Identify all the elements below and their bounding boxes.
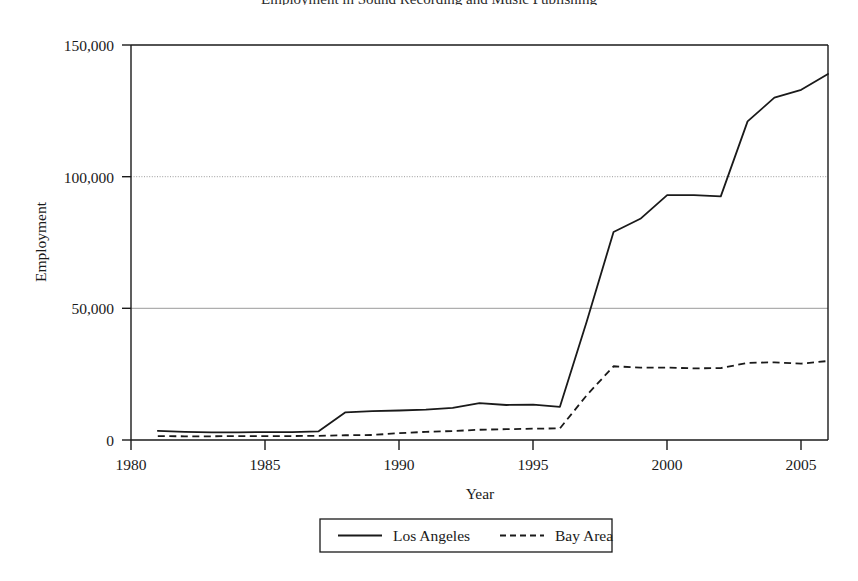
y-tick-marks: [122, 45, 131, 440]
x-tick-label-2000: 2000: [652, 456, 683, 473]
legend-label-los-angeles: Los Angeles: [393, 527, 470, 544]
line-chart: 0 50,000 100,000 150,000 1980 1985 1990 …: [0, 0, 858, 581]
series-line-los-angeles: [158, 74, 828, 432]
chart-figure: Employment in Sound Recording and Music …: [0, 0, 858, 581]
gridlines: [131, 177, 828, 309]
plot-frame: [131, 45, 828, 440]
x-tick-labels: 1980 1985 1990 1995 2000 2005: [116, 456, 817, 473]
y-tick-label-100000: 100,000: [64, 169, 115, 186]
chart-legend: Los Angeles Bay Area: [320, 519, 613, 552]
x-tick-marks: [131, 440, 801, 450]
x-tick-label-2005: 2005: [786, 456, 817, 473]
legend-label-bay-area: Bay Area: [555, 527, 613, 544]
y-tick-label-50000: 50,000: [71, 300, 114, 317]
series-line-bay-area: [158, 361, 828, 436]
y-tick-label-150000: 150,000: [64, 37, 115, 54]
cropped-top-caption: Employment in Sound Recording and Music …: [0, 0, 858, 5]
x-tick-label-1995: 1995: [518, 456, 549, 473]
y-tick-labels: 0 50,000 100,000 150,000: [64, 37, 115, 449]
y-tick-label-0: 0: [106, 432, 114, 449]
x-tick-label-1985: 1985: [250, 456, 281, 473]
y-axis-title: Employment: [32, 201, 49, 282]
x-axis-title: Year: [466, 485, 495, 502]
x-tick-label-1980: 1980: [116, 456, 147, 473]
x-tick-label-1990: 1990: [384, 456, 415, 473]
data-series: [158, 74, 828, 436]
